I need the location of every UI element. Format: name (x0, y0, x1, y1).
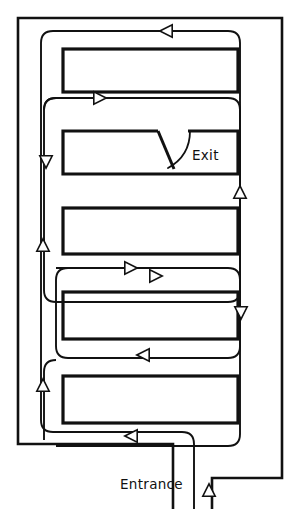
floor-plan-diagram: Exit Entrance (0, 0, 291, 512)
exit-label: Exit (192, 147, 219, 163)
room-outline-room-3 (63, 208, 238, 254)
rooms-group (63, 49, 238, 423)
route-top-loop (44, 31, 240, 302)
arrow-left-up (37, 239, 49, 251)
exit-door-leaf (158, 131, 174, 169)
route-left-spine (41, 31, 194, 509)
circulation-routes-group (41, 31, 240, 509)
arrow-row4-east (150, 270, 162, 282)
floor-plan-svg: Exit Entrance (0, 0, 291, 512)
arrow-entry-up (203, 484, 215, 496)
route-mid-loop (56, 268, 240, 358)
arrow-row3-east (125, 262, 137, 274)
room-outline-room-5 (63, 376, 238, 423)
entrance-label: Entrance (120, 476, 183, 492)
arrow-mid-east (94, 92, 106, 104)
arrow-row4-west (137, 349, 149, 361)
arrow-left-up2 (37, 379, 49, 391)
room-outline-room-1 (63, 49, 238, 92)
arrow-right-up (234, 186, 246, 198)
room-outline-room-4 (63, 292, 238, 339)
direction-arrows-group (37, 25, 247, 496)
arrow-top-west (160, 25, 172, 37)
route-lower-loop (44, 360, 56, 440)
